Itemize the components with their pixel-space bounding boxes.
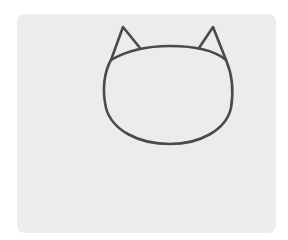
right-ear-icon: [199, 27, 226, 60]
left-ear-icon: [111, 27, 140, 60]
cat-head-outline-icon: [0, 0, 288, 240]
head-outline-icon: [104, 46, 232, 144]
